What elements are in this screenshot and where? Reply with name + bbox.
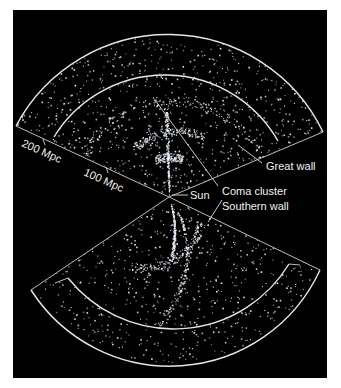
coma-cluster-leader	[155, 100, 218, 186]
inner-arc-south	[68, 264, 289, 329]
outer-arc-north	[16, 35, 323, 132]
southern-wall-label: Southern wall	[222, 200, 289, 212]
redshift-survey-map: 200 Mpc 100 Mpc Great wall Sun Coma clus…	[0, 0, 341, 388]
edge-tick-left	[55, 278, 68, 283]
great-wall-label: Great wall	[266, 160, 316, 172]
scale-label-200: 200 Mpc	[20, 137, 64, 165]
southern-galaxy-points	[32, 204, 312, 363]
scale-label-100: 100 Mpc	[82, 166, 126, 194]
left-edge-south	[31, 197, 169, 290]
coma-cluster-label: Coma cluster	[222, 185, 287, 197]
edge-tick-right	[289, 264, 300, 265]
distance-axis	[16, 126, 169, 197]
northern-wedge-outline	[16, 35, 323, 197]
sun-label: Sun	[190, 189, 210, 201]
